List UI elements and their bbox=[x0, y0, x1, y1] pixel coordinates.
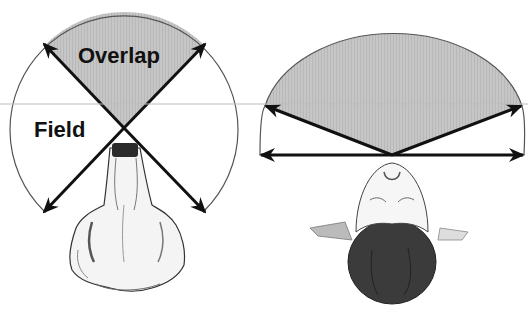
left-panel: Overlap Field bbox=[10, 12, 238, 291]
visual-field-diagram: Overlap Field bbox=[0, 0, 528, 322]
human-head-illustration bbox=[310, 163, 468, 304]
overlap-region bbox=[265, 34, 522, 155]
field-label: Field bbox=[34, 117, 85, 142]
right-panel bbox=[260, 34, 525, 304]
overlap-label: Overlap bbox=[78, 43, 160, 68]
